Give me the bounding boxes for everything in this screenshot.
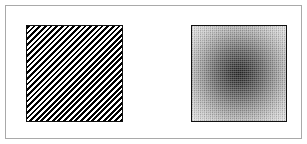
radial-gradient-fill [192, 26, 286, 121]
diagonal-stripe-fill [27, 26, 122, 121]
panel-diagonal-stripes[interactable] [26, 25, 123, 122]
figure-root [0, 0, 307, 144]
panel-radial-gradient[interactable] [191, 25, 287, 122]
outer-frame [5, 5, 302, 139]
